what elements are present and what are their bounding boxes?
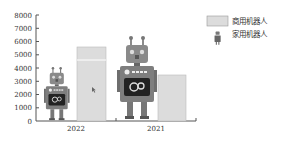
y-tick-7000: 7000 <box>14 25 32 33</box>
robot-sales-chart: 8000 7000 6000 5000 4000 3000 2000 1000 … <box>0 0 287 142</box>
x-tick-2022: 2022 <box>67 125 85 133</box>
legend: 商用机器人 家用机器人 <box>207 16 268 45</box>
y-tick-8000: 8000 <box>14 12 32 20</box>
legend-item-household: 家用机器人 <box>215 29 268 45</box>
y-tick-2000: 2000 <box>14 91 32 99</box>
bar-2022-commercial <box>77 47 106 121</box>
x-tick-2021: 2021 <box>147 125 165 133</box>
legend-item-commercial: 商用机器人 <box>207 16 268 26</box>
y-tick-0: 0 <box>28 118 32 126</box>
y-tick-3000: 3000 <box>14 78 32 86</box>
robot-icon-2021 <box>117 36 157 119</box>
legend-label-household: 家用机器人 <box>232 29 268 39</box>
legend-label-commercial: 商用机器人 <box>232 16 268 26</box>
robot-legend-icon <box>215 32 221 45</box>
bar-2021-commercial <box>158 75 186 121</box>
y-tick-5000: 5000 <box>14 51 32 59</box>
y-tick-1000: 1000 <box>14 104 32 112</box>
y-tick-6000: 6000 <box>14 38 32 46</box>
y-tick-4000: 4000 <box>14 65 32 73</box>
y-axis: 8000 7000 6000 5000 4000 3000 2000 1000 … <box>14 12 39 126</box>
robot-icon-2022 <box>44 67 70 120</box>
legend-swatch-commercial <box>207 16 228 26</box>
